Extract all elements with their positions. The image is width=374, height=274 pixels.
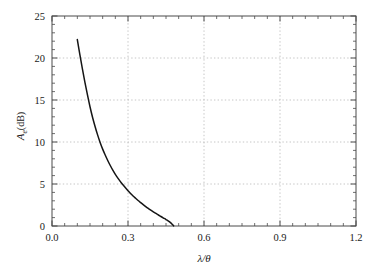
x-tick-label: 0.9	[273, 232, 286, 243]
y-tick-label: 20	[35, 53, 46, 64]
y-tick-label: 15	[35, 95, 46, 106]
x-tick-label: 0.3	[121, 232, 134, 243]
y-tick-label: 0	[40, 221, 45, 232]
y-tick-label: 25	[35, 11, 46, 22]
x-axis-title-denominator: θ	[205, 252, 211, 264]
y-tick-labels: 0510152025	[35, 11, 46, 232]
x-tick-label: 1.2	[349, 232, 362, 243]
y-axis-title: Ae(dB)	[14, 112, 29, 141]
chart-canvas: 0.00.30.60.91.2 0510152025 λ/θ Ae(dB)	[0, 0, 374, 274]
x-tick-label: 0.6	[197, 232, 210, 243]
x-tick-labels: 0.00.30.60.91.2	[45, 232, 362, 243]
y-tick-label: 10	[35, 137, 46, 148]
y-axis-title-unit: (dB)	[15, 112, 27, 130]
x-tick-label: 0.0	[45, 232, 58, 243]
chart-figure: 0.00.30.60.91.2 0510152025 λ/θ Ae(dB)	[0, 0, 374, 274]
x-axis-title: λ/θ	[196, 252, 211, 264]
y-tick-label: 5	[40, 179, 45, 190]
